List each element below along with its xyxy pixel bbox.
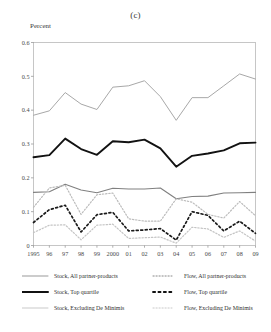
legend-swatch-icon [152, 271, 180, 281]
series-line [34, 74, 256, 120]
y-axis-tick-label: 0.4 [22, 106, 30, 113]
legend-swatch-icon [152, 287, 180, 297]
legend-item-label: Stock, Top quartile [54, 287, 99, 297]
x-axis-tick-label: 04 [173, 250, 179, 257]
legend-column-flow: Flow, All partner-productsFlow, Top quar… [152, 268, 271, 316]
legend-swatch-icon [22, 303, 50, 313]
y-axis-tick-label: 0.5 [22, 73, 30, 80]
legend-item-label: Flow, All partner-products [184, 271, 246, 281]
legend-item-flow-top-quartile[interactable]: Flow, Top quartile [152, 284, 271, 300]
x-axis-tick-label: 02 [141, 250, 147, 257]
x-axis-tick-label: 97 [62, 250, 68, 257]
x-axis-tick-label: 09 [252, 250, 258, 257]
x-axis-tick-label: 08 [237, 250, 243, 257]
x-axis-tick-label: 01 [126, 250, 132, 257]
x-axis-tick-label: 99 [94, 250, 100, 257]
legend-item-label: Stock, All partner-products [54, 271, 118, 281]
y-axis-tick-label: 0.6 [22, 39, 30, 46]
y-axis-tick-label: 0.3 [22, 140, 30, 147]
x-axis-tick-label: 03 [157, 250, 163, 257]
legend-item-label: Flow, Excluding De Minimis [184, 303, 253, 313]
y-axis-tick-label: 0.2 [22, 174, 30, 181]
legend-item-label: Stock, Excluding De Minimis [54, 303, 124, 313]
x-axis-tick-label: 96 [46, 250, 52, 257]
legend-swatch-icon [22, 287, 50, 297]
series-line [34, 224, 256, 243]
series-line [34, 185, 256, 221]
series-line [34, 184, 256, 199]
plot-frame [34, 43, 256, 246]
chart-legend: Stock, All partner-productsStock, Top qu… [0, 268, 271, 330]
y-axis-title: Percent [30, 22, 51, 30]
legend-swatch-icon [152, 303, 180, 313]
legend-column-stock: Stock, All partner-productsStock, Top qu… [22, 268, 152, 316]
x-axis-tick-label: 98 [78, 250, 84, 257]
legend-item-stock-all-partner-products[interactable]: Stock, All partner-products [22, 268, 152, 284]
x-axis-tick-label: 2000 [107, 250, 119, 257]
legend-item-flow-all-partner-products[interactable]: Flow, All partner-products [152, 268, 271, 284]
series-line [34, 205, 256, 240]
legend-swatch-icon [22, 271, 50, 281]
legend-item-label: Flow, Top quartile [184, 287, 227, 297]
figure-panel-c: (c) Percent 00.10.20.30.40.50.6199596979… [0, 0, 271, 332]
x-axis-tick-label: 1995 [27, 250, 39, 257]
legend-item-flow-excluding-de-minimis[interactable]: Flow, Excluding De Minimis [152, 300, 271, 316]
series-line [34, 139, 256, 167]
y-axis-tick-label: 0 [26, 242, 29, 249]
y-axis-tick-label: 0.1 [22, 208, 30, 215]
x-axis-tick-label: 06 [205, 250, 211, 257]
legend-item-stock-top-quartile[interactable]: Stock, Top quartile [22, 284, 152, 300]
legend-item-stock-excluding-de-minimis[interactable]: Stock, Excluding De Minimis [22, 300, 152, 316]
x-axis-tick-label: 07 [221, 250, 227, 257]
page-title: (c) [0, 10, 271, 20]
line-chart: 00.10.20.30.40.50.6199596979899200001020… [0, 0, 271, 268]
x-axis-tick-label: 05 [189, 250, 195, 257]
